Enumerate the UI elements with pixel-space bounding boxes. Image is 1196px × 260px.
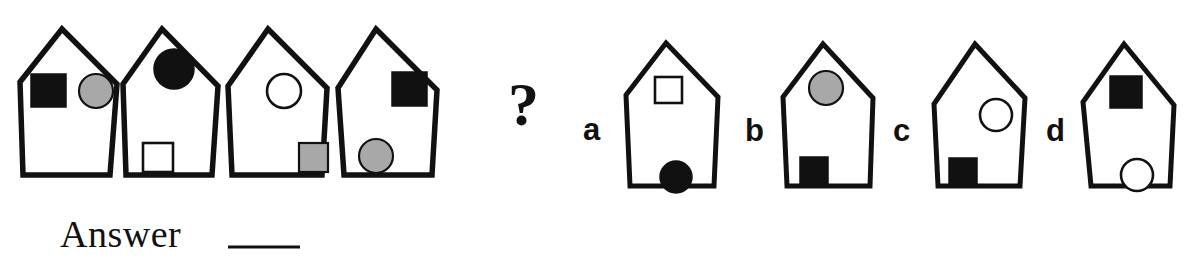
- black-square-mark: [1110, 76, 1142, 108]
- gray-circle-mark: [359, 139, 393, 173]
- black-square-mark: [949, 158, 977, 186]
- puzzle-worksheet: ? a b c d Answer: [0, 0, 1196, 260]
- option-a[interactable]: [626, 43, 718, 193]
- white-circle-mark: [267, 74, 301, 108]
- black-circle-mark: [660, 161, 692, 193]
- sequence-item-3: [228, 29, 328, 175]
- option-b-letter: b: [745, 113, 764, 148]
- white-circle-mark: [980, 99, 1012, 131]
- black-circle-mark: [154, 49, 194, 89]
- option-c[interactable]: [934, 44, 1025, 186]
- black-square-mark: [800, 157, 828, 185]
- option-b[interactable]: [783, 44, 873, 186]
- option-d[interactable]: [1083, 44, 1174, 191]
- black-square-mark: [31, 74, 66, 107]
- answer-label: Answer: [60, 213, 181, 255]
- gray-square-mark: [299, 143, 328, 172]
- white-circle-mark: [1121, 159, 1153, 191]
- sequence-item-2: [123, 29, 218, 175]
- option-d-letter: d: [1046, 113, 1065, 148]
- sequence-item-4: [338, 29, 437, 175]
- puzzle-figure-canvas: ? a b c d Answer: [0, 0, 1196, 260]
- white-square-mark: [655, 77, 682, 103]
- sequence-item-1: [20, 29, 117, 175]
- gray-circle-mark: [79, 74, 113, 108]
- option-a-letter: a: [583, 112, 601, 147]
- option-c-letter: c: [893, 113, 910, 148]
- gray-circle-mark: [809, 71, 843, 105]
- black-square-mark: [392, 72, 427, 106]
- white-square-mark: [143, 143, 173, 172]
- question-mark: ?: [508, 70, 539, 138]
